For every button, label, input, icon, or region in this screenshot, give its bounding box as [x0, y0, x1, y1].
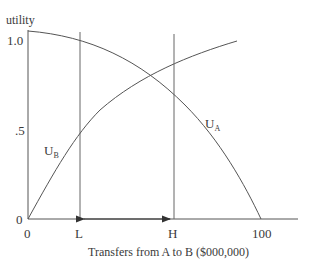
y-axis-label: utility: [6, 13, 35, 27]
y-tick-1: 1.0: [7, 33, 23, 48]
y-tick-0: 0: [16, 212, 23, 227]
ua-label: UA: [205, 116, 220, 133]
ub-label: UB: [44, 143, 59, 160]
diagram-canvas: utility 1.0 .5 0 0 L H 100 Transfers fro…: [0, 0, 309, 270]
utility-transfer-diagram: utility 1.0 .5 0 0 L H 100 Transfers fro…: [0, 0, 309, 270]
x-tick-h: H: [168, 226, 177, 241]
ua-curve: [28, 31, 261, 219]
ub-label-sub: B: [53, 151, 58, 160]
x-tick-100: 100: [252, 226, 272, 241]
x-tick-0: 0: [24, 226, 31, 241]
x-tick-l: L: [75, 226, 83, 241]
x-axis-label: Transfers from A to B ($000,000): [88, 245, 249, 259]
y-tick-05: .5: [15, 123, 25, 138]
ua-label-sub: A: [214, 124, 220, 133]
